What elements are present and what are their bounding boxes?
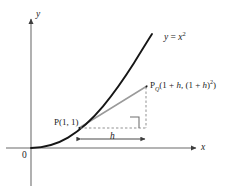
point-p-marker: [79, 127, 81, 129]
curve-equation-label: y = x2: [164, 33, 186, 43]
point-p-label: P(1, 1): [54, 118, 79, 127]
parabola-curve: [31, 34, 152, 148]
point-q-middle: , (1 +: [181, 80, 203, 90]
right-angle-marker: [130, 117, 139, 128]
y-axis-label: y: [36, 10, 40, 20]
point-q-open: (1 +: [159, 80, 176, 90]
point-q-end-paren: ): [213, 80, 216, 90]
origin-label: 0: [22, 151, 27, 161]
curve-eq-equals: =: [168, 32, 178, 42]
parabola-secant-figure: y x 0 y = x2 P(1, 1) PQ(1 + h, (1 + h)2)…: [0, 0, 239, 194]
point-q-label: PQ(1 + h, (1 + h)2): [150, 81, 216, 90]
point-q-marker: [146, 86, 148, 88]
x-axis-label: x: [201, 143, 205, 153]
figure-canvas: [0, 0, 239, 194]
curve-eq-exponent: 2: [183, 30, 186, 37]
h-distance-label: h: [110, 132, 115, 142]
